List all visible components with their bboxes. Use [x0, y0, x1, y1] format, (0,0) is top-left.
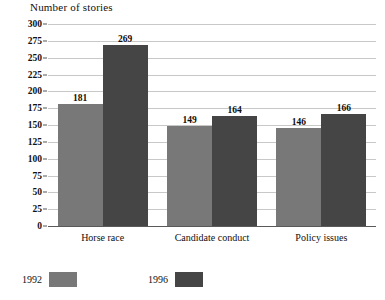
axis-baseline	[48, 226, 376, 227]
y-axis-tick-label: 200	[28, 86, 42, 96]
y-axis-tick-label: 175	[28, 103, 42, 113]
y-tick-mark	[43, 74, 47, 75]
category-label-policy-issues: Policy issues	[295, 232, 347, 243]
legend-item-1996[interactable]: 1996	[148, 272, 203, 287]
bar-value-label: 269	[118, 34, 132, 45]
y-tick-mark	[43, 141, 47, 142]
y-axis-tick-label: 75	[33, 171, 43, 181]
chart-title: Number of stories	[30, 1, 113, 13]
y-tick-mark	[43, 226, 47, 227]
bar-value-label: 146	[292, 117, 306, 128]
legend-label: 1992	[22, 274, 42, 285]
bar-value-label: 181	[73, 93, 87, 104]
y-tick-mark	[43, 192, 47, 193]
y-axis-tick-label: 250	[28, 53, 42, 63]
y-tick-mark	[43, 108, 47, 109]
category-label-candidate-conduct: Candidate conduct	[175, 232, 250, 243]
plot-area: 0255075100125150175200225250275300 18126…	[48, 24, 376, 226]
bar-chart: Number of stories 0255075100125150175200…	[0, 0, 385, 300]
bar-value-label: 164	[227, 105, 241, 116]
chart-legend: 19921996	[0, 272, 385, 294]
bar-value-label: 166	[337, 103, 351, 114]
y-tick-mark	[43, 24, 47, 25]
y-axis-tick-label: 275	[28, 36, 42, 46]
legend-swatch-1996	[175, 272, 203, 287]
legend-label: 1996	[148, 274, 168, 285]
y-axis-tick-label: 50	[33, 187, 43, 197]
y-axis-tick-label: 150	[28, 120, 42, 130]
y-tick-mark	[43, 209, 47, 210]
y-tick-mark	[43, 158, 47, 159]
y-tick-mark	[43, 91, 47, 92]
y-axis-tick-label: 300	[28, 19, 42, 29]
y-axis-tick-label: 25	[33, 204, 43, 214]
data-labels-layer: 181269149164146166	[48, 24, 376, 226]
y-axis-tick-label: 225	[28, 70, 42, 80]
y-tick-mark	[43, 57, 47, 58]
category-label-horse-race: Horse race	[81, 232, 124, 243]
y-axis-tick-label: 125	[28, 137, 42, 147]
y-tick-mark	[43, 40, 47, 41]
y-tick-mark	[43, 125, 47, 126]
y-axis-tick-label: 0	[37, 221, 42, 231]
y-tick-mark	[43, 175, 47, 176]
legend-item-1992[interactable]: 1992	[22, 272, 77, 287]
bar-value-label: 149	[182, 115, 196, 126]
legend-swatch-1992	[49, 272, 77, 287]
y-axis-tick-label: 100	[28, 154, 42, 164]
